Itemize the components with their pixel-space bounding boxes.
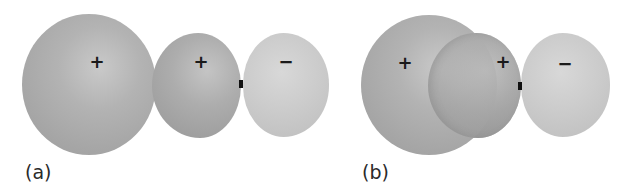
nucleus-marker [518,82,522,90]
s-orbital-sign: + [397,54,412,72]
panel-a: + + − (a) [0,0,340,190]
s-orbital-sphere [22,14,156,155]
nucleus-marker [239,80,243,88]
overlap-region [428,33,521,138]
p-positive-sign: + [495,53,510,71]
p-negative-sign: − [557,55,572,73]
p-positive-sign: + [193,53,208,71]
p-orbital-negative-lobe [521,33,610,137]
panel-label-b: (b) [362,163,389,182]
p-orbital-negative-lobe [243,33,329,137]
s-orbital-sign: + [89,53,104,71]
p-orbital-positive-lobe [152,33,241,138]
panel-label-a: (a) [25,163,51,182]
panel-b: + + − (b) [340,0,633,190]
p-negative-sign: − [278,53,293,71]
